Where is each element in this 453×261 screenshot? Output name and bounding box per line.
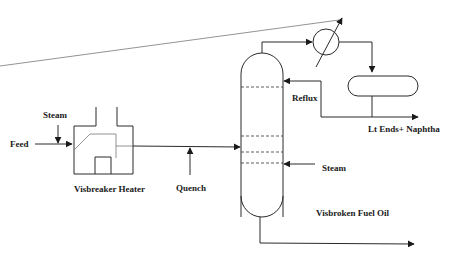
feed-label: Feed bbox=[10, 139, 29, 149]
column-steam-stream: Steam bbox=[284, 163, 346, 173]
feed-stream: Feed bbox=[10, 139, 72, 149]
heater-outlet-stream bbox=[133, 146, 240, 147]
condensate-stream bbox=[339, 42, 372, 72]
overhead-product-label: Lt Ends+ Naphtha bbox=[368, 124, 440, 134]
visbreaker-heater: Visbreaker Heater bbox=[74, 107, 145, 194]
fractionator-column bbox=[241, 53, 283, 217]
drum-outlet-stream: Lt Ends+ Naphtha bbox=[321, 81, 440, 134]
column-steam-label: Steam bbox=[322, 163, 346, 173]
quench-stream: Quench bbox=[176, 148, 206, 193]
bottoms-product-label: Visbroken Fuel Oil bbox=[316, 208, 390, 218]
reflux-label: Reflux bbox=[292, 93, 318, 103]
reflux-stream: Reflux bbox=[284, 81, 321, 103]
heater-label: Visbreaker Heater bbox=[74, 184, 145, 194]
heater-steam-label: Steam bbox=[43, 110, 67, 120]
overhead-vapor-stream bbox=[262, 42, 312, 53]
process-flow-diagram: Feed Steam Visbreaker Heater Quench bbox=[0, 0, 453, 261]
heater-steam-stream: Steam bbox=[43, 110, 67, 143]
reflux-drum bbox=[348, 76, 418, 96]
quench-label: Quench bbox=[176, 183, 206, 193]
